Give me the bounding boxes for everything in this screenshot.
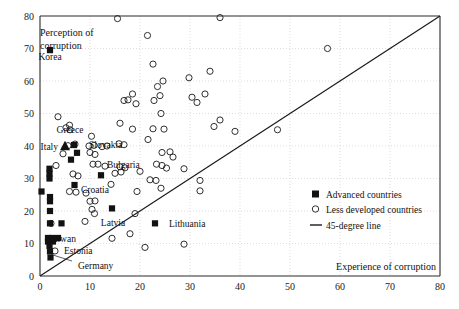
- scatter-chart: 01020304050607080 01020304050607080 Kore…: [0, 0, 459, 309]
- x-axis-tick-labels: 01020304050607080: [38, 281, 446, 292]
- svg-text:Perception of: Perception of: [40, 27, 94, 38]
- x-tick-80: 80: [435, 281, 445, 292]
- annotation-estonia: Estonia: [64, 246, 93, 256]
- annotation-croatia: Croatia: [81, 185, 110, 195]
- svg-text:Experience of corruption: Experience of corruption: [336, 261, 436, 272]
- annotation-bulgaria: Bulgaria: [107, 160, 140, 170]
- y-axis-tick-labels: 01020304050607080: [24, 11, 34, 282]
- legend-label-reference: 45-degree line: [326, 221, 381, 231]
- y-tick-30: 30: [24, 173, 34, 184]
- annotation-taiwan: Taiwan: [48, 234, 76, 244]
- svg-text:corruption: corruption: [40, 40, 82, 51]
- y-tick-10: 10: [24, 238, 34, 249]
- y-tick-60: 60: [24, 76, 34, 87]
- x-tick-0: 0: [38, 281, 43, 292]
- legend-label-less-developed: Less developed countries: [326, 205, 422, 215]
- legend-marker-less-developed-icon: [312, 206, 318, 212]
- x-tick-60: 60: [335, 281, 345, 292]
- x-tick-20: 20: [135, 281, 145, 292]
- y-tick-40: 40: [24, 141, 34, 152]
- x-tick-10: 10: [85, 281, 95, 292]
- legend-marker-advanced-icon: [312, 191, 319, 198]
- y-axis-title: Perception of corruption: [40, 27, 94, 51]
- annotation-lithuania: Lithuania: [169, 219, 206, 229]
- x-tick-50: 50: [285, 281, 295, 292]
- y-tick-80: 80: [24, 11, 34, 22]
- annotation-slovakia: Slovakia: [89, 140, 123, 150]
- legend-label-advanced: Advanced countries: [326, 190, 402, 200]
- y-tick-50: 50: [24, 108, 34, 119]
- x-tick-30: 30: [185, 281, 195, 292]
- annotation-italy: Italy: [41, 142, 59, 152]
- x-axis-title: Experience of corruption: [336, 261, 436, 272]
- plot-canvas: 01020304050607080 01020304050607080 Kore…: [0, 0, 459, 309]
- y-tick-20: 20: [24, 206, 34, 217]
- y-tick-0: 0: [29, 271, 34, 282]
- x-tick-70: 70: [385, 281, 395, 292]
- annotation-greece: Greece: [57, 125, 84, 135]
- x-tick-40: 40: [235, 281, 245, 292]
- annotation-korea: Korea: [38, 52, 62, 62]
- y-tick-70: 70: [24, 43, 34, 54]
- country-annotations: KoreaItalyGreeceSlovakiaBulgariaCroatiaL…: [38, 52, 206, 271]
- legend: Advanced countries Less developed countr…: [310, 190, 422, 231]
- annotation-germany: Germany: [78, 261, 114, 271]
- annotation-latvia: Latvia: [101, 218, 126, 228]
